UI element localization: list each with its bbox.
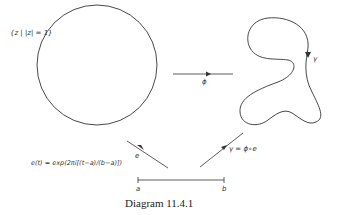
gamma-curve xyxy=(240,18,321,125)
gamma-label: γ xyxy=(313,55,317,63)
phi-arrowhead xyxy=(206,72,211,77)
unit-circle xyxy=(37,5,157,125)
interval-label-b: b xyxy=(222,185,226,193)
e-formula: e(t) = exp(2πi[(t−a)/(b−a)]) xyxy=(31,159,122,167)
diagram-caption: Diagram 11.4.1 xyxy=(125,197,193,209)
unit-circle-set-label: {z | |z| = 1} xyxy=(10,29,53,37)
e-arrow xyxy=(127,141,168,168)
interval-label-a: a xyxy=(136,185,140,193)
gamma-arrowhead xyxy=(305,52,311,58)
e-label: e xyxy=(135,152,139,160)
composition-label: γ = ϕ∘e xyxy=(229,145,257,153)
e-arrowhead xyxy=(137,145,144,150)
phi-label: ϕ xyxy=(202,78,207,86)
